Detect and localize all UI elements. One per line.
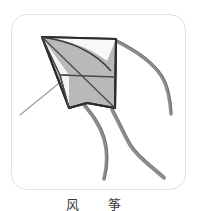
caption-char-2: 筝 [108, 198, 121, 211]
kite-illustration [12, 15, 186, 190]
caption: 风 筝 [0, 198, 197, 211]
kite-tail-upper-right-edge [117, 40, 172, 113]
kite-tail-right [112, 110, 164, 178]
caption-char-1: 风 [66, 198, 79, 211]
illustration-card [11, 14, 186, 190]
kite-tail-upper-right [116, 41, 171, 114]
kite-tail-left [84, 105, 107, 179]
kite-tail-right-edge [113, 109, 165, 177]
page-root: 风 筝 [0, 0, 197, 211]
